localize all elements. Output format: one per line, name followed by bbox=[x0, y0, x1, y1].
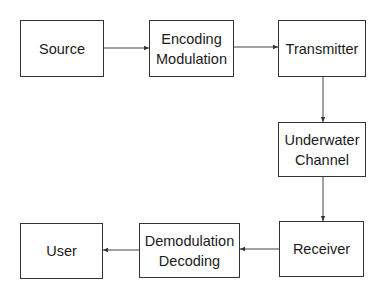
transmitter-label: Transmitter bbox=[286, 39, 359, 59]
block-diagram: Source Encoding Modulation Transmitter U… bbox=[0, 0, 382, 294]
encoding-modulation-block: Encoding Modulation bbox=[149, 20, 234, 77]
source-block: Source bbox=[20, 20, 104, 77]
underwater-channel-block: Underwater Channel bbox=[278, 122, 366, 177]
underwater-label: Underwater bbox=[285, 130, 360, 150]
receiver-label: Receiver bbox=[293, 239, 350, 259]
encoding-label: Encoding bbox=[161, 29, 221, 49]
channel-label: Channel bbox=[295, 150, 349, 170]
user-label: User bbox=[46, 241, 77, 261]
user-block: User bbox=[20, 223, 103, 279]
receiver-block: Receiver bbox=[279, 221, 364, 277]
source-label: Source bbox=[39, 39, 85, 59]
demodulation-decoding-block: Demodulation Decoding bbox=[139, 223, 240, 278]
modulation-label: Modulation bbox=[156, 49, 227, 69]
transmitter-block: Transmitter bbox=[278, 20, 366, 77]
decoding-label: Decoding bbox=[159, 251, 220, 271]
demodulation-label: Demodulation bbox=[145, 231, 234, 251]
